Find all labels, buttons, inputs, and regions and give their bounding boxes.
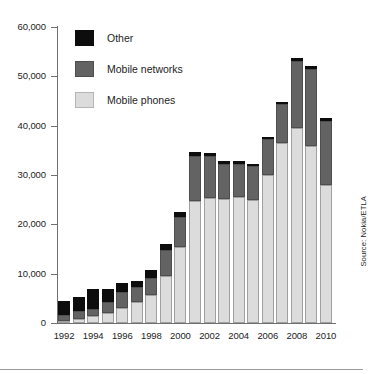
- bar-segment-mobile-networks: [58, 315, 70, 321]
- bar-segment-mobile-networks: [131, 287, 143, 302]
- bar-2003[interactable]: [218, 161, 230, 323]
- bar-2008[interactable]: [291, 58, 303, 323]
- bar-2006[interactable]: [262, 138, 274, 323]
- x-axis-tick-label: 1996: [107, 330, 137, 341]
- legend-item-other[interactable]: Other: [75, 29, 183, 47]
- bar-segment-other: [160, 244, 172, 250]
- y-axis-tick: [51, 126, 57, 127]
- bar-segment-mobile-networks: [204, 156, 216, 197]
- bar-segment-mobile-phones: [160, 276, 172, 323]
- bar-1998[interactable]: [145, 270, 157, 323]
- x-axis-tick-label: 1992: [49, 330, 79, 341]
- bar-segment-other: [102, 289, 114, 302]
- bottom-divider: [0, 369, 363, 370]
- bar-segment-mobile-networks: [262, 139, 274, 175]
- bar-segment-mobile-phones: [247, 200, 259, 323]
- bar-2005[interactable]: [247, 164, 259, 323]
- x-axis-tick-label: 2008: [282, 330, 312, 341]
- y-axis-tick-label: 10,000: [0, 268, 46, 279]
- y-axis-tick: [51, 27, 57, 28]
- bar-segment-other: [145, 270, 157, 277]
- bar-1999[interactable]: [160, 244, 172, 323]
- bar-2001[interactable]: [189, 152, 201, 323]
- legend-label-mobile-phones: Mobile phones: [107, 94, 175, 106]
- bar-segment-mobile-phones: [102, 313, 114, 323]
- x-axis-tick-label: 1998: [136, 330, 166, 341]
- bar-segment-mobile-networks: [116, 292, 128, 308]
- bar-segment-other: [291, 58, 303, 61]
- bar-segment-mobile-phones: [174, 247, 186, 323]
- bar-2009[interactable]: [305, 66, 317, 323]
- bar-2004[interactable]: [233, 161, 245, 323]
- bar-1996[interactable]: [116, 283, 128, 323]
- bar-segment-other: [116, 283, 128, 292]
- legend-label-other: Other: [107, 32, 133, 44]
- bar-segment-mobile-phones: [58, 321, 70, 323]
- legend-label-mobile-networks: Mobile networks: [107, 63, 183, 75]
- bar-segment-mobile-networks: [87, 309, 99, 316]
- bar-segment-other: [73, 297, 85, 311]
- y-axis-tick-label: 30,000: [0, 169, 46, 180]
- legend-swatch-mobile-networks-icon: [75, 61, 94, 77]
- y-axis-tick-label: 20,000: [0, 218, 46, 229]
- bar-segment-mobile-phones: [262, 175, 274, 323]
- y-axis-tick-label: 40,000: [0, 120, 46, 131]
- bar-segment-mobile-phones: [116, 308, 128, 323]
- bar-segment-mobile-networks: [189, 156, 201, 200]
- bar-segment-other: [58, 301, 70, 314]
- legend-item-mobile-networks[interactable]: Mobile networks: [75, 60, 183, 78]
- bar-segment-mobile-networks: [160, 250, 172, 277]
- bar-segment-mobile-phones: [204, 198, 216, 323]
- bar-segment-other: [247, 164, 259, 166]
- legend-swatch-other-icon: [75, 30, 94, 46]
- y-axis-tick-label: 60,000: [0, 21, 46, 32]
- x-axis-tick-label: 2006: [253, 330, 283, 341]
- x-axis-tick-label: 2000: [165, 330, 195, 341]
- x-axis-tick-label: 1994: [78, 330, 108, 341]
- x-axis-tick-label: 2010: [311, 330, 341, 341]
- bar-1994[interactable]: [87, 289, 99, 323]
- y-axis-tick-label: 0: [0, 317, 46, 328]
- bar-segment-mobile-phones: [145, 295, 157, 323]
- bar-segment-other: [320, 118, 332, 121]
- bar-segment-other: [131, 281, 143, 287]
- bar-segment-other: [218, 161, 230, 164]
- legend-swatch-mobile-phones-icon: [75, 92, 94, 108]
- bar-segment-other: [262, 137, 274, 139]
- bar-segment-mobile-networks: [102, 302, 114, 313]
- bar-segment-mobile-networks: [276, 104, 288, 143]
- bar-segment-mobile-networks: [218, 164, 230, 199]
- bar-segment-mobile-networks: [233, 164, 245, 198]
- bar-segment-mobile-phones: [218, 199, 230, 323]
- bar-segment-mobile-phones: [291, 128, 303, 323]
- legend-item-mobile-phones[interactable]: Mobile phones: [75, 91, 183, 109]
- bar-segment-mobile-phones: [305, 146, 317, 323]
- bar-2010[interactable]: [320, 118, 332, 323]
- bar-segment-mobile-phones: [233, 197, 245, 323]
- bar-2007[interactable]: [276, 102, 288, 323]
- source-note: Source: Nokia/ETLA: [359, 196, 368, 267]
- y-axis-tick-label: 50,000: [0, 70, 46, 81]
- bar-segment-mobile-phones: [189, 201, 201, 323]
- bar-segment-other: [233, 161, 245, 164]
- x-axis-tick-label: 2002: [195, 330, 225, 341]
- bar-1997[interactable]: [131, 281, 143, 323]
- bar-segment-mobile-networks: [305, 69, 317, 146]
- bar-segment-mobile-networks: [145, 278, 157, 296]
- bar-segment-mobile-phones: [131, 302, 143, 323]
- bar-segment-mobile-networks: [291, 61, 303, 128]
- bar-2000[interactable]: [174, 212, 186, 323]
- x-axis-tick-label: 2004: [224, 330, 254, 341]
- bar-1992[interactable]: [58, 301, 70, 323]
- y-axis-tick: [51, 323, 57, 324]
- bar-segment-other: [204, 153, 216, 156]
- y-axis-tick: [51, 175, 57, 176]
- bar-segment-mobile-phones: [73, 319, 85, 323]
- bar-1993[interactable]: [73, 297, 85, 323]
- bar-2002[interactable]: [204, 153, 216, 323]
- bar-1995[interactable]: [102, 289, 114, 323]
- x-axis-line: [57, 323, 336, 324]
- bar-segment-other: [174, 212, 186, 217]
- bar-segment-other: [189, 152, 201, 156]
